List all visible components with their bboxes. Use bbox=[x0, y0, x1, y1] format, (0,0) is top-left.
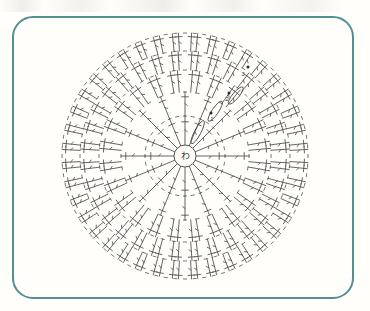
chain-arc-tick bbox=[97, 242, 99, 244]
stitch-crossbar bbox=[90, 229, 94, 234]
chain-arc-tick bbox=[306, 135, 307, 138]
stitch-crossbar bbox=[195, 55, 202, 56]
stitch-tick bbox=[126, 229, 127, 232]
stitch-tick bbox=[205, 108, 206, 111]
stitch-tick bbox=[233, 73, 234, 76]
stitch-crossbar bbox=[274, 108, 277, 114]
chain-arc-tick bbox=[224, 147, 225, 150]
stitch-crossbar bbox=[137, 245, 143, 248]
chain-arc-tick bbox=[248, 50, 251, 52]
stitch-tick bbox=[228, 70, 229, 73]
stitch-tick bbox=[112, 242, 113, 245]
stitch-tick bbox=[174, 177, 175, 180]
chain-arc-tick bbox=[164, 277, 167, 278]
chain-arc-tick bbox=[105, 122, 106, 125]
stitch-tick bbox=[73, 130, 75, 132]
round-start-dot-3 bbox=[247, 66, 250, 69]
stitch-crossbar bbox=[96, 204, 99, 210]
magic-ring-group: わ bbox=[174, 145, 196, 167]
stitch-tick bbox=[289, 197, 292, 198]
chain-arc-tick bbox=[264, 61, 266, 63]
chain-arc-tick bbox=[151, 235, 154, 236]
chain-arc-tick bbox=[217, 177, 219, 180]
stitch-crossbar bbox=[227, 245, 233, 248]
stitch-tick bbox=[216, 65, 218, 68]
stitch-crossbar bbox=[194, 37, 201, 38]
stitch-crossbar bbox=[250, 106, 254, 112]
stitch-crossbar bbox=[103, 215, 107, 220]
chain-arc-tick bbox=[304, 126, 305, 129]
stitch-crossbar bbox=[265, 167, 266, 174]
stitch-crossbar bbox=[174, 74, 181, 75]
chain-arc-tick bbox=[277, 204, 279, 207]
stitch-crossbar bbox=[135, 221, 141, 225]
chain-arc-tick bbox=[104, 61, 106, 63]
stitch-tick bbox=[226, 49, 227, 52]
chain-arc-tick bbox=[191, 195, 194, 196]
chain-arc-tick bbox=[239, 46, 242, 47]
chain-arc-tick bbox=[281, 114, 282, 117]
stitch-crossbar bbox=[285, 140, 286, 147]
stitch-tick bbox=[257, 67, 258, 70]
stitch-crossbar bbox=[233, 242, 239, 245]
chain-arc-tick bbox=[134, 63, 137, 65]
stitch-crossbar bbox=[104, 139, 105, 146]
chain-arc-tick bbox=[136, 42, 139, 43]
magic-ring-label: わ bbox=[181, 151, 190, 161]
stitch-tick bbox=[86, 210, 87, 213]
stitch-crossbar bbox=[274, 198, 277, 204]
chain-arc-tick bbox=[65, 126, 66, 129]
stitch-crossbar bbox=[93, 108, 96, 114]
stitch-tick bbox=[265, 204, 268, 205]
chain-arc-tick bbox=[284, 227, 286, 230]
stitch-tick bbox=[244, 199, 247, 200]
stitch-tick bbox=[137, 258, 138, 261]
chain-arc-tick bbox=[245, 94, 247, 96]
stitch-tick bbox=[217, 88, 218, 91]
stitch-tick bbox=[268, 199, 271, 200]
chain-arc-tick bbox=[221, 39, 224, 40]
stitch-crossbar bbox=[303, 165, 304, 172]
stitch-tick bbox=[159, 265, 161, 267]
stitch-crossbar bbox=[233, 67, 239, 70]
chain-arc-tick bbox=[233, 63, 236, 65]
stitch-tick bbox=[258, 214, 261, 215]
chain-arc-tick bbox=[92, 204, 94, 207]
stitch-crossbar bbox=[247, 54, 253, 58]
chain-arc-tick bbox=[256, 56, 259, 58]
chain-arc-tick bbox=[63, 174, 64, 177]
chain-arc-tick bbox=[153, 256, 156, 257]
stitch-crossbar bbox=[263, 92, 267, 97]
stitch-crossbar bbox=[122, 51, 128, 54]
chain-arc-tick bbox=[216, 235, 219, 236]
chain-arc-tick bbox=[84, 124, 85, 127]
chain-arc-tick bbox=[277, 75, 279, 77]
stitch-crossbar bbox=[121, 74, 126, 78]
stitch-tick bbox=[294, 180, 296, 182]
stitch-tick bbox=[92, 129, 94, 131]
chain-arc-tick bbox=[281, 195, 282, 198]
stitch-tick bbox=[273, 187, 276, 189]
stitch-crossbar bbox=[229, 87, 235, 91]
stitch-crossbar bbox=[196, 75, 203, 76]
chain-arc-tick bbox=[155, 275, 158, 276]
stitch-crossbar bbox=[195, 256, 202, 257]
stitch-tick bbox=[122, 249, 123, 252]
stitch-crossbar bbox=[244, 74, 249, 78]
stitch-tick bbox=[257, 169, 259, 171]
chain-arc-tick bbox=[143, 58, 146, 59]
stitch-crossbar bbox=[168, 236, 175, 237]
stitch-tick bbox=[242, 57, 243, 60]
chain-arc-tick bbox=[301, 116, 302, 119]
stitch-tick bbox=[75, 125, 77, 127]
stitch-tick bbox=[287, 202, 290, 203]
chain-arc-tick bbox=[155, 36, 158, 37]
stitch-crossbar bbox=[287, 93, 290, 99]
chain-arc-tick bbox=[87, 195, 88, 198]
stitch-tick bbox=[111, 141, 113, 143]
stitch-tick bbox=[127, 107, 130, 108]
stitch-crossbar bbox=[265, 139, 266, 146]
stitch-crossbar bbox=[96, 103, 99, 109]
chain-arc-tick bbox=[203, 34, 206, 35]
stitch-crossbar bbox=[107, 61, 112, 65]
